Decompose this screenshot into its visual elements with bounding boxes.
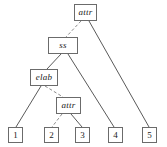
node-leaf-4: 4	[108, 127, 123, 143]
edge-attr-top-to-ss	[66, 21, 81, 37]
node-label: 3	[80, 131, 85, 140]
node-leaf-5: 5	[142, 127, 157, 143]
edge-attr-lower-to-leaf-2	[52, 114, 62, 127]
node-leaf-3: 3	[75, 127, 90, 143]
node-label: elab	[36, 73, 52, 82]
node-elab: elab	[30, 69, 58, 86]
edge-elab-to-attr-lower	[45, 86, 63, 97]
node-attr-top: attr	[74, 4, 97, 21]
edge-attr-lower-to-leaf-3	[71, 114, 82, 127]
node-label: attr	[62, 101, 76, 110]
derivation-tree-diagram: attrsselabattr12345	[0, 0, 167, 147]
edge-ss-to-leaf-4	[68, 54, 114, 127]
node-leaf-1: 1	[8, 127, 23, 143]
node-leaf-2: 2	[44, 127, 59, 143]
node-label: 2	[49, 131, 54, 140]
node-label: attr	[79, 8, 93, 17]
edges-layer	[0, 0, 167, 147]
node-label: ss	[59, 41, 66, 50]
edge-ss-to-elab	[47, 54, 61, 69]
node-label: 1	[13, 131, 18, 140]
node-label: 5	[147, 131, 152, 140]
node-label: 4	[113, 131, 118, 140]
edge-elab-to-leaf-1	[16, 86, 41, 127]
node-ss: ss	[48, 37, 78, 54]
node-attr-lower: attr	[56, 97, 81, 114]
edge-attr-top-to-leaf-5	[89, 21, 149, 127]
